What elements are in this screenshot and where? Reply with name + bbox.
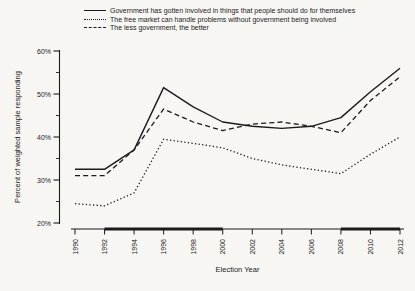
- legend-label: Government has gotten involved in things…: [110, 7, 355, 15]
- series-line-solid: [75, 68, 400, 169]
- dashed-line-key-icon: [84, 27, 106, 28]
- legend-label: The free market can handle problems with…: [110, 16, 336, 24]
- legend-item-dashed: The less government, the better: [84, 24, 355, 32]
- y-tick-label: 30%: [37, 177, 51, 184]
- x-tick-label: 2008: [337, 239, 344, 255]
- y-tick-label: 40%: [37, 134, 51, 141]
- y-tick-label: 20%: [37, 220, 51, 227]
- y-tick-label: 60%: [37, 48, 51, 55]
- x-tick-label: 1990: [72, 239, 79, 255]
- x-tick-label: 1992: [101, 239, 108, 255]
- series-line-dashed: [75, 77, 400, 176]
- y-tick-label: 50%: [37, 91, 51, 98]
- x-tick-label: 2012: [397, 239, 404, 255]
- dotted-line-key-icon: [84, 19, 106, 20]
- x-tick-label: 1998: [190, 239, 197, 255]
- x-tick-label: 2000: [219, 239, 226, 255]
- x-tick-label: 2010: [367, 239, 374, 255]
- x-tick-label: 1996: [160, 239, 167, 255]
- legend-label: The less government, the better: [110, 24, 209, 32]
- legend-item-dotted: The free market can handle problems with…: [84, 16, 355, 24]
- x-tick-label: 1994: [131, 239, 138, 255]
- plot-area: 20%30%40%50%60%1990199219941996199820002…: [0, 0, 415, 291]
- x-tick-label: 2002: [249, 239, 256, 255]
- y-axis-title: Percent of weighted sample responding: [13, 71, 22, 203]
- chart: 20%30%40%50%60%1990199219941996199820002…: [0, 0, 415, 291]
- x-tick-label: 2004: [278, 239, 285, 255]
- x-tick-label: 2006: [308, 239, 315, 255]
- legend-item-solid: Government has gotten involved in things…: [84, 7, 355, 15]
- solid-line-key-icon: [84, 10, 106, 11]
- series-line-dotted: [75, 137, 400, 206]
- legend: Government has gotten involved in things…: [84, 7, 355, 32]
- x-axis-title: Election Year: [216, 265, 260, 274]
